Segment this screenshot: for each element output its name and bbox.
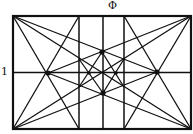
- inner-left-dot: [87, 71, 91, 75]
- phi-label: Φ: [108, 0, 117, 11]
- construction-line: [79, 59, 103, 93]
- left-dot: [45, 70, 50, 75]
- bottom-dot: [100, 90, 105, 95]
- top-dot: [99, 49, 104, 54]
- construction-lines: [13, 16, 191, 129]
- one-label: 1: [1, 66, 8, 77]
- golden-rectangle-diagram: [0, 0, 193, 134]
- construction-line: [103, 59, 124, 93]
- construction-line: [48, 73, 191, 129]
- construction-line: [13, 16, 157, 72]
- construction-line: [13, 72, 157, 129]
- inner-right-dot: [114, 71, 118, 75]
- construction-line: [79, 52, 102, 87]
- construction-line: [48, 16, 191, 73]
- right-dot: [154, 69, 159, 74]
